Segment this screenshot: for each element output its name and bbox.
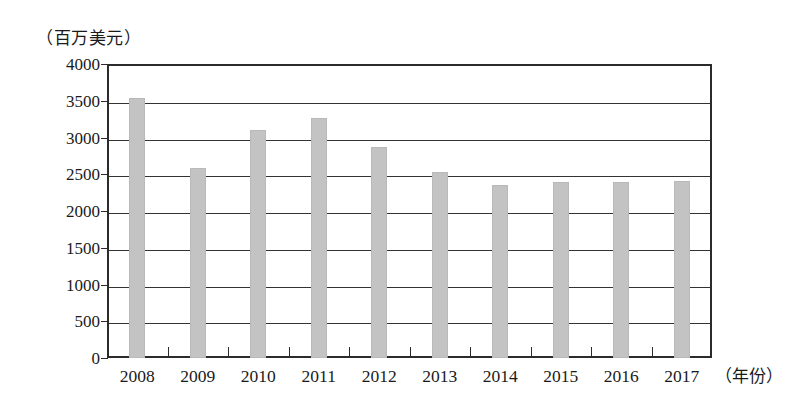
bar [492, 185, 508, 358]
bar [371, 147, 387, 358]
x-axis-tick-label: 2017 [647, 364, 717, 388]
y-axis-tick-label: 500 [38, 313, 100, 330]
bar [613, 182, 629, 358]
x-axis-tick-label: 2009 [163, 364, 233, 388]
x-axis-tick-mark [349, 347, 350, 358]
x-axis-tick-label: 2013 [405, 364, 475, 388]
y-axis-tick-label: 0 [38, 350, 100, 367]
x-axis-tick-mark [228, 347, 229, 358]
x-axis-tick-mark [591, 347, 592, 358]
x-axis-unit-label: （年份） [715, 364, 783, 388]
x-axis-tick-label: 2012 [344, 364, 414, 388]
x-axis-tick-mark [410, 347, 411, 358]
x-axis-tick-label: 2008 [102, 364, 172, 388]
y-axis-tick-label: 1000 [38, 276, 100, 293]
y-axis-tick-label: 2000 [38, 203, 100, 220]
x-axis-tick-mark [168, 347, 169, 358]
bar [129, 98, 145, 358]
x-axis-tick-mark [289, 347, 290, 358]
bar [674, 181, 690, 358]
bar [250, 130, 266, 358]
x-axis-tick-label: 2014 [465, 364, 535, 388]
bar [432, 172, 448, 358]
y-axis-tick-labels: 40003500300025002000150010005000 [30, 64, 100, 358]
x-axis-tick-label: 2010 [223, 364, 293, 388]
x-axis-tick-label: 2016 [586, 364, 656, 388]
bar [311, 118, 327, 358]
x-axis-tick-mark [531, 347, 532, 358]
y-axis-tick-label: 3500 [38, 92, 100, 109]
y-axis-unit-label: （百万美元） [36, 24, 141, 49]
x-axis-tick-label: 2011 [284, 364, 354, 388]
bar [553, 182, 569, 358]
bar-series [107, 64, 712, 358]
x-axis-tick-mark [652, 347, 653, 358]
y-axis-tick-mark [101, 358, 108, 359]
x-axis-tick-marks [107, 344, 712, 358]
bar [190, 168, 206, 358]
y-axis-tick-label: 2500 [38, 166, 100, 183]
y-axis-tick-label: 3000 [38, 129, 100, 146]
y-axis-tick-label: 1500 [38, 239, 100, 256]
x-axis-tick-label: 2015 [526, 364, 596, 388]
bar-chart-figure: （百万美元） 40003500300025002000150010005000 … [0, 0, 794, 416]
x-axis-tick-labels: 2008200920102011201220132014201520162017 [107, 364, 712, 392]
x-axis-tick-mark [470, 347, 471, 358]
y-axis-tick-label: 4000 [38, 56, 100, 73]
